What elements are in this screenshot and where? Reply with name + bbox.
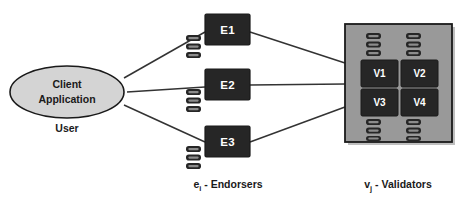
validator-group[interactable]: V1 V2 V3 V4 [345,24,452,142]
v4-label: V4 [413,97,426,108]
network-diagram: Client Application User E1 [0,0,467,198]
ledger-block [366,33,381,39]
ledger-icon-validator-top-right [406,33,421,56]
ledger-block [186,163,201,169]
edge-e1-to-validators [250,32,345,63]
validator-node-v4[interactable]: V4 [401,89,438,116]
endorsers-caption-text: - Endorsers [201,178,262,190]
client-label-line1: Client [52,78,82,90]
ledger-block [406,50,421,56]
ledger-block [366,119,381,125]
ledger-icon-e1 [186,35,201,58]
ledger-block [406,128,421,134]
ledger-block [406,33,421,39]
ledger-block [366,128,381,134]
ledger-block [186,52,201,58]
ledger-block [366,136,381,141]
ledger-icon-e2 [186,89,201,112]
ledger-block [186,35,201,41]
edge-e2-to-validators [250,84,345,85]
v1-label: V1 [373,68,386,79]
validator-node-v2[interactable]: V2 [401,60,438,87]
endorser-node-e3[interactable]: E3 [205,126,250,157]
ledger-block [186,44,201,50]
endorser-node-e1[interactable]: E1 [205,14,250,45]
validator-node-v3[interactable]: V3 [361,89,398,116]
ledger-block [186,106,201,112]
client-label-line2: Application [38,93,95,105]
ledger-block [406,42,421,48]
e2-label: E2 [220,79,234,91]
ledger-block [186,155,201,161]
validators-caption-text: - Validators [372,178,432,190]
client-application-node[interactable]: Client Application [10,66,124,118]
user-caption: User [55,122,78,134]
validators-caption: vj - Validators [364,178,432,193]
ledger-block [406,136,421,141]
ledger-icon-e3 [186,146,201,169]
v3-label: V3 [373,97,386,108]
ledger-icon-validator-bottom-right [406,119,421,141]
ledger-block [186,89,201,95]
ledger-icon-validator-bottom-left [366,119,381,141]
ledger-block [186,98,201,104]
endorser-node-e2[interactable]: E2 [205,69,250,100]
validator-node-v1[interactable]: V1 [361,60,398,87]
edge-e3-to-validators [250,107,345,142]
ledger-block [186,146,201,152]
e1-label: E1 [220,24,235,36]
ledger-block [366,42,381,48]
ledger-block [406,119,421,125]
endorsers-caption: ei - Endorsers [193,178,262,193]
e3-label: E3 [220,136,234,148]
ledger-block [366,50,381,56]
diagram-canvas: Client Application User E1 [0,0,467,198]
ledger-icon-validator-top-left [366,33,381,56]
v2-label: V2 [413,68,426,79]
